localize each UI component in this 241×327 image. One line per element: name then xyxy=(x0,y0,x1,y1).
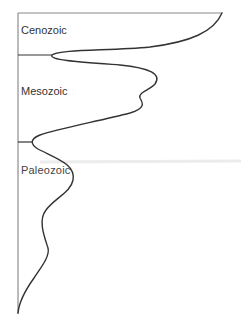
diversity-diagram: Cenozoic Mesozoic Paleozoic xyxy=(0,0,241,327)
era-label-paleozoic: Paleozoic xyxy=(21,164,71,176)
scan-artifact-band xyxy=(40,161,241,162)
era-label-mesozoic: Mesozoic xyxy=(21,85,67,97)
era-label-cenozoic: Cenozoic xyxy=(21,24,67,36)
